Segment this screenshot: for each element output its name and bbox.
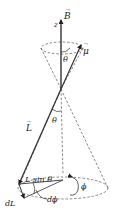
radius-label: L sin θ — [24, 175, 52, 184]
l-vector-mark: → — [26, 118, 32, 124]
theta-top-arc — [61, 48, 70, 52]
l-label: L — [25, 123, 32, 133]
mu-label: μ — [83, 46, 89, 56]
dphi-label: dϕ — [47, 195, 58, 204]
b-vector-mark: → — [65, 6, 71, 12]
dl-label: dL — [5, 199, 15, 208]
phi-rotation-arrow — [70, 177, 78, 195]
b-field-label: B — [63, 11, 71, 21]
theta-mid-arc — [52, 109, 61, 112]
phi-label: ϕ — [81, 182, 87, 191]
dphi-arc — [33, 183, 35, 194]
mu-arrow — [61, 45, 81, 89]
theta-mid-label: θ — [52, 116, 57, 125]
theta-top-label: θ — [63, 55, 68, 64]
mu-vector-mark: → — [83, 40, 89, 46]
upper-cone — [41, 42, 83, 89]
precession-diagram: B → z μ → θ L → θ L sin θ dL dϕ ϕ — [0, 0, 116, 218]
z-axis-label: z — [53, 21, 58, 29]
l-arrow — [19, 89, 61, 184]
